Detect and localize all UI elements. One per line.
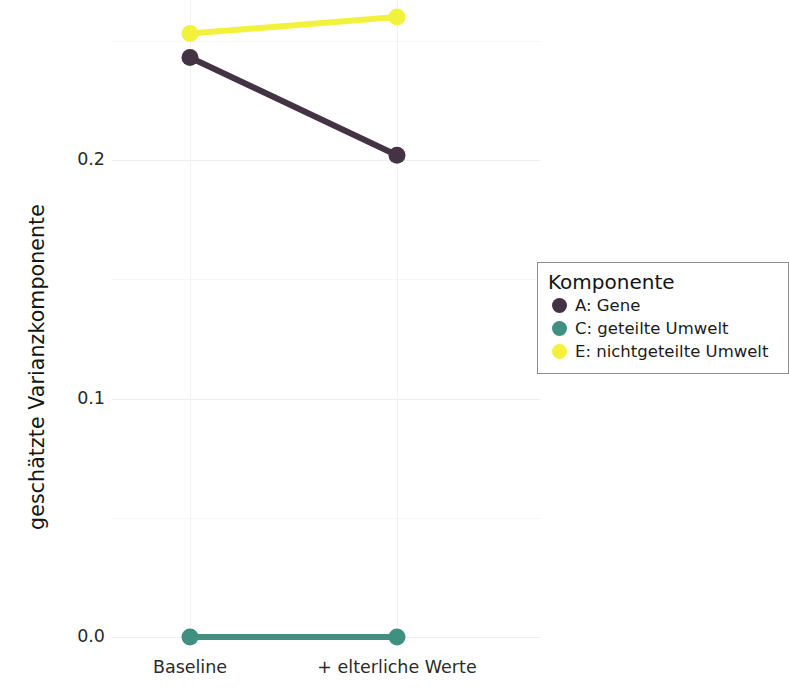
series-line-A xyxy=(190,57,397,155)
data-point-C-0 xyxy=(182,629,199,646)
y-tick-label-0.0: 0.0 xyxy=(43,628,105,646)
data-point-E-0 xyxy=(182,25,199,42)
legend-item-1[interactable]: C: geteilte Umwelt xyxy=(548,317,778,340)
series-C xyxy=(182,629,406,646)
data-point-A-0 xyxy=(182,49,199,66)
data-point-A-1 xyxy=(389,147,406,164)
x-tick-label-1: + elterliche Werte xyxy=(317,657,476,677)
series-line-E xyxy=(190,17,397,34)
legend-item-label: C: geteilte Umwelt xyxy=(575,321,728,338)
legend-items: A: GeneC: geteilte UmweltE: nichtgeteilt… xyxy=(548,294,778,363)
legend-swatch-icon xyxy=(548,295,570,317)
legend-item-label: A: Gene xyxy=(575,298,640,315)
circle-marker-icon xyxy=(552,298,567,313)
x-tick-label-0: Baseline xyxy=(153,657,227,677)
legend-item-2[interactable]: E: nichtgeteilte Umwelt xyxy=(548,340,778,363)
circle-marker-icon xyxy=(552,321,567,336)
series-E xyxy=(182,8,406,42)
plot-area xyxy=(112,0,540,648)
y-tick-label-0.1: 0.1 xyxy=(43,390,105,408)
series-A xyxy=(182,49,406,164)
legend: Komponente A: GeneC: geteilte UmweltE: n… xyxy=(537,262,789,374)
data-point-C-1 xyxy=(389,629,406,646)
y-tick-label-0.2: 0.2 xyxy=(43,151,105,169)
legend-item-label: E: nichtgeteilte Umwelt xyxy=(575,344,768,361)
legend-swatch-icon xyxy=(548,341,570,363)
circle-marker-icon xyxy=(552,344,567,359)
legend-title: Komponente xyxy=(548,271,778,293)
y-axis-tick-labels: 0.20.10.0 xyxy=(0,0,105,698)
series-layer xyxy=(112,0,540,648)
data-point-E-1 xyxy=(389,8,406,25)
legend-swatch-icon xyxy=(548,318,570,340)
legend-item-0[interactable]: A: Gene xyxy=(548,294,778,317)
